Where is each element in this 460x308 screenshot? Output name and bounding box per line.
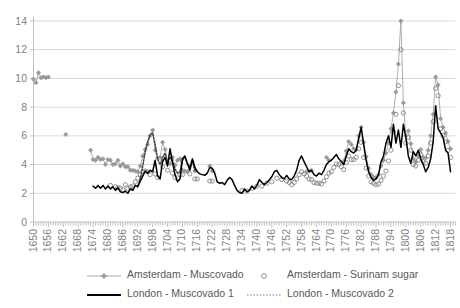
data-point-amsterdam-surinam (436, 94, 440, 98)
x-axis-label: 1716 (191, 229, 202, 252)
x-axis-label: 1782 (355, 229, 366, 252)
x-axis-label: 1704 (162, 229, 173, 252)
data-point-amsterdam-surinam (342, 168, 346, 172)
x-axis-label: 1656 (42, 229, 53, 252)
legend-item: London - Muscovado 1 (85, 286, 234, 300)
x-axis-label: 1686 (117, 229, 128, 252)
x-axis-label: 1806 (415, 229, 426, 252)
x-axis-label: 1734 (236, 229, 247, 252)
legend-item: Amsterdam - Surinam sugar (245, 267, 418, 281)
y-axis-ticks (30, 21, 34, 222)
x-axis-label: 1662 (57, 229, 68, 252)
data-point-amsterdam-surinam (322, 179, 326, 183)
x-axis-label: 1752 (281, 229, 292, 252)
data-point-amsterdam-muscovado (426, 148, 430, 152)
data-point-amsterdam-surinam (188, 172, 192, 176)
y-axis-label: 8 (5, 102, 27, 113)
legend-item: London - Muscovado 2 (245, 286, 394, 300)
data-point-amsterdam-muscovado (438, 116, 442, 120)
x-axis-label: 1650 (28, 229, 39, 252)
x-axis-label: 1722 (206, 229, 217, 252)
x-axis-label: 1818 (445, 229, 456, 252)
y-axis-label: 10 (5, 73, 27, 84)
x-axis-ticks (34, 222, 456, 227)
data-point-amsterdam-surinam (386, 159, 390, 163)
chart-plot-area (0, 0, 460, 308)
series-amsterdam-surinam (108, 48, 452, 194)
x-axis-label: 1692 (132, 229, 143, 252)
legend-item-label: Amsterdam - Surinam sugar (283, 268, 418, 280)
chart-container: 02468101214 1650165616621668167416801686… (0, 0, 460, 308)
data-point-amsterdam-surinam (165, 168, 169, 172)
data-point-amsterdam-muscovado (401, 101, 405, 105)
x-axis-label: 1710 (176, 229, 187, 252)
legend-marker (101, 273, 106, 278)
x-axis-label: 1764 (311, 229, 322, 252)
data-point-amsterdam-surinam (381, 174, 385, 178)
x-axis-label: 1680 (102, 229, 113, 252)
y-axis-label: 4 (5, 159, 27, 170)
x-axis-label: 1746 (266, 229, 277, 252)
legend-key-dotted-line-icon (245, 287, 283, 299)
data-point-amsterdam-muscovado (406, 129, 410, 133)
data-point-amsterdam-muscovado (36, 70, 40, 74)
x-axis-label: 1800 (400, 229, 411, 252)
x-axis-label: 1794 (385, 229, 396, 252)
legend-item-label: Amsterdam - Muscovado (123, 268, 244, 280)
y-axis-label: 6 (5, 130, 27, 141)
x-axis-label: 1758 (296, 229, 307, 252)
data-point-amsterdam-surinam (270, 180, 274, 184)
x-axis-label: 1812 (430, 229, 441, 252)
series-amsterdam-muscovado (31, 19, 452, 180)
legend-item-label: London - Muscovado 1 (123, 287, 234, 299)
data-point-amsterdam-surinam (384, 169, 388, 173)
data-point-amsterdam-surinam (379, 178, 383, 182)
data-point-amsterdam-muscovado (396, 62, 400, 66)
data-point-amsterdam-muscovado (103, 162, 107, 166)
x-axis-label: 1776 (340, 229, 351, 252)
x-axis-label: 1674 (87, 229, 98, 252)
data-point-amsterdam-muscovado (150, 128, 154, 132)
data-point-amsterdam-muscovado (160, 140, 164, 144)
data-point-amsterdam-muscovado (399, 19, 403, 23)
x-axis-label: 1668 (72, 229, 83, 252)
x-axis-label: 1770 (325, 229, 336, 252)
data-point-amsterdam-muscovado (88, 148, 92, 152)
legend-key-solid-line-icon (85, 287, 123, 299)
data-point-amsterdam-surinam (401, 111, 405, 115)
legend-item: Amsterdam - Muscovado (85, 267, 244, 281)
x-axis-label: 1788 (370, 229, 381, 252)
data-point-amsterdam-surinam (434, 86, 438, 90)
data-point-amsterdam-surinam (389, 148, 393, 152)
legend-item-label: London - Muscovado 2 (283, 287, 394, 299)
data-point-amsterdam-muscovado (409, 142, 413, 146)
x-axis-label: 1728 (221, 229, 232, 252)
data-point-amsterdam-surinam (295, 177, 299, 181)
y-axis-label: 0 (5, 217, 27, 228)
x-axis-label: 1698 (147, 229, 158, 252)
chart-legend: Amsterdam - MuscovadoAmsterdam - Surinam… (0, 265, 460, 308)
y-axis-label: 14 (5, 16, 27, 27)
gridlines (34, 21, 456, 193)
data-point-amsterdam-surinam (275, 176, 279, 180)
data-point-amsterdam-muscovado (428, 134, 432, 138)
data-point-amsterdam-muscovado (394, 90, 398, 94)
data-point-amsterdam-muscovado (443, 131, 447, 135)
x-axis-label: 1740 (251, 229, 262, 252)
legend-key-line-diamond-icon (85, 268, 123, 280)
legend-marker (262, 274, 267, 279)
series-line-amsterdam-muscovado (34, 21, 451, 177)
data-point-amsterdam-muscovado (163, 147, 167, 151)
y-axis-label: 2 (5, 188, 27, 199)
legend-key-circle-open-icon (245, 268, 283, 280)
y-axis-label: 12 (5, 44, 27, 55)
